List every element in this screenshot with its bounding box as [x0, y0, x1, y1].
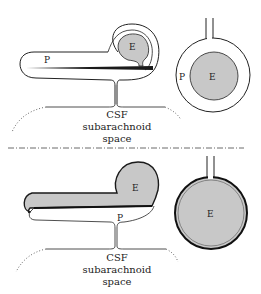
top-circle-label-p: P [179, 72, 185, 82]
bottom-label-p: P [117, 213, 123, 223]
bottom-panel: E P CSF subarachnoid space E [16, 156, 247, 287]
top-caption-line3: space [102, 133, 131, 144]
bottom-caption-line3: space [102, 276, 131, 287]
diagram: P E CSF subarachnoid space E P E P [0, 0, 261, 294]
bottom-circle-label-e: E [207, 209, 214, 219]
bottom-caption-line2: subarachnoid [83, 264, 152, 275]
top-caption-line1: CSF [106, 109, 128, 120]
top-label-p: P [44, 55, 50, 65]
top-panel: P E CSF subarachnoid space E P [12, 18, 250, 144]
bottom-caption-line1: CSF [106, 252, 128, 263]
top-caption-line2: subarachnoid [83, 121, 152, 132]
top-dark-layer [26, 66, 153, 70]
top-label-e: E [129, 42, 136, 52]
top-circle-label-e: E [209, 72, 216, 82]
bottom-label-e: E [132, 183, 139, 193]
